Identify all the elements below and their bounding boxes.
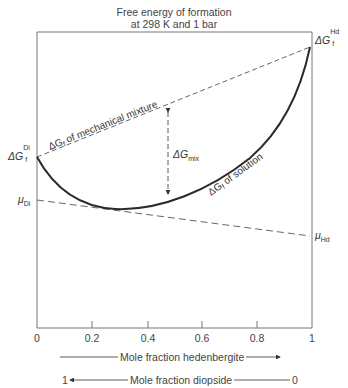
diopside-right-value: 0 xyxy=(292,374,298,386)
tick-0-8: 0.8 xyxy=(250,332,265,344)
tick-1: 1 xyxy=(309,332,315,344)
mu-di-label: μDi xyxy=(18,193,30,207)
diopside-axis-label: Mole fraction diopside xyxy=(128,374,234,386)
dgf-di-label: ΔGDif xyxy=(8,150,23,162)
x-axis-ticks xyxy=(92,321,257,328)
dg-mix-label: ΔGmix xyxy=(173,148,199,162)
mech-mixture-label: ΔGf of mechanical mixture xyxy=(47,98,160,153)
hedenbergite-axis-label: Mole fraction hedenbergite xyxy=(118,351,246,363)
plot-frame xyxy=(37,32,312,328)
tick-0-4: 0.4 xyxy=(141,332,156,344)
tick-0-2: 0.2 xyxy=(85,332,100,344)
solution-label: ΔGf of solution xyxy=(206,151,265,199)
dgf-hd-label: ΔGHdf xyxy=(315,34,330,46)
chemical-potential-tangent xyxy=(37,200,310,236)
diopside-left-value: 1 xyxy=(62,374,68,386)
tick-0: 0 xyxy=(34,332,40,344)
diagram-canvas: ΔGf of mechanical mixture ΔGf of solutio… xyxy=(0,0,348,388)
mu-hd-label: μHd xyxy=(315,229,330,243)
tick-0-6: 0.6 xyxy=(195,332,210,344)
